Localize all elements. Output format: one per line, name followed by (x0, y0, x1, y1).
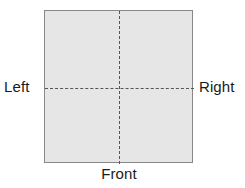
label-left: Left (4, 78, 29, 95)
orientation-square (44, 10, 193, 163)
label-right: Right (199, 78, 235, 95)
orientation-diagram: Left Right Front (0, 0, 245, 188)
horizontal-dashed-axis (45, 88, 194, 89)
label-front: Front (0, 165, 238, 182)
